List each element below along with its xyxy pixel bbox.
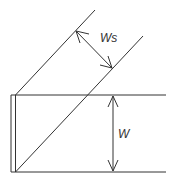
diagram-canvas: Ws W: [0, 0, 174, 181]
diagram-figure: [0, 0, 174, 181]
upper-diagonal-line: [16, 10, 96, 95]
lower-diagonal-line: [16, 36, 144, 172]
w-label: W: [118, 128, 129, 140]
ws-label: Ws: [100, 32, 117, 44]
